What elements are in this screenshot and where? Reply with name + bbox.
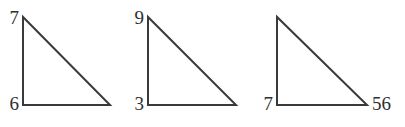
triangle-3-outline: [277, 17, 367, 105]
triangle-1-bottom-left-label: 6: [10, 94, 20, 113]
triangle-2-outline: [148, 17, 236, 105]
triangle-1-outline: [23, 17, 110, 105]
triangle-3-bottom-right-label: 56: [372, 94, 391, 113]
triangle-2-apex-label: 9: [135, 8, 145, 27]
triangle-2-bottom-left-label: 3: [135, 94, 145, 113]
triangle-3-bottom-left-label: 7: [264, 94, 274, 113]
triangle-shape-group: [23, 17, 367, 105]
triangle-1: [23, 17, 110, 105]
triangle-1-apex-label: 7: [10, 8, 20, 27]
triangle-2: [148, 17, 236, 105]
triangles-figure: [0, 0, 405, 127]
triangle-3: [277, 17, 367, 105]
